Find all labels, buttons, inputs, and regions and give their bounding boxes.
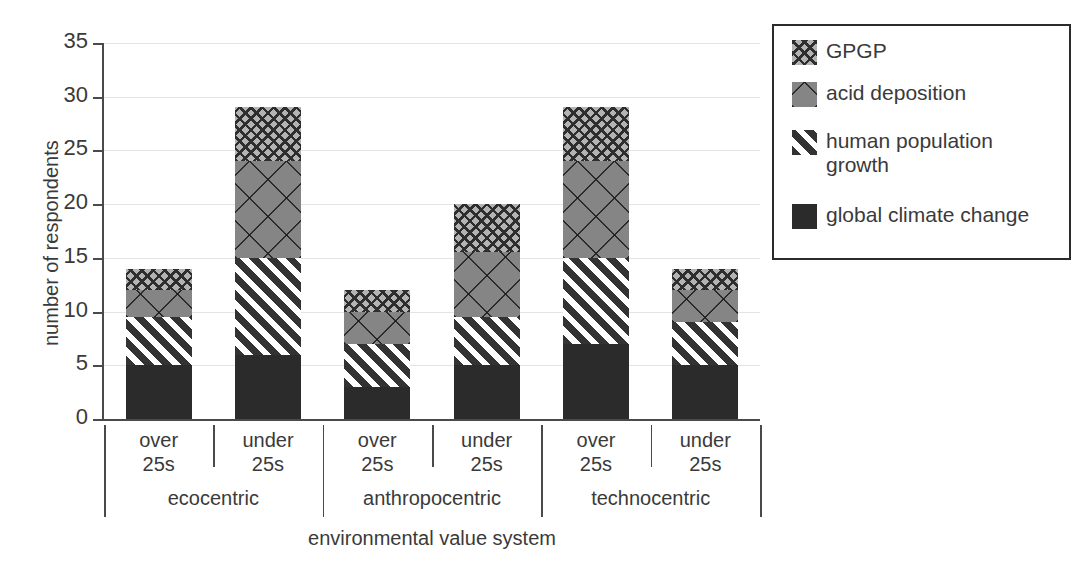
legend-swatch xyxy=(792,130,817,155)
gridline xyxy=(104,258,760,259)
legend-item: GPGP xyxy=(792,40,1054,65)
y-axis-tick xyxy=(93,419,102,421)
bar-segment xyxy=(344,312,410,344)
legend-label: acid deposition xyxy=(826,81,966,105)
x-axis-line xyxy=(102,419,760,421)
y-axis-tick xyxy=(93,365,102,367)
bar-segment xyxy=(235,161,301,258)
bar-segment xyxy=(563,107,629,161)
legend-label: human population growth xyxy=(826,129,993,176)
bar-segment xyxy=(563,344,629,419)
x-axis-divider xyxy=(541,425,543,517)
legend-swatch xyxy=(792,82,817,107)
y-axis-tick xyxy=(93,204,102,206)
legend-swatch xyxy=(792,40,817,65)
x-axis-divider xyxy=(651,425,653,467)
x-axis-group-label: ecocentric xyxy=(104,487,323,511)
x-axis-category-label: under25s xyxy=(432,429,541,476)
y-axis-tick xyxy=(93,258,102,260)
y-axis-tick xyxy=(93,150,102,152)
x-axis-group-label: technocentric xyxy=(541,487,760,511)
legend-item: human population growth xyxy=(792,130,1054,176)
bar-stack xyxy=(563,43,629,419)
y-axis-tick-label: 20 xyxy=(30,191,88,213)
x-axis-divider xyxy=(213,425,215,467)
bar-segment xyxy=(344,290,410,311)
bar-segment xyxy=(563,258,629,344)
y-axis-tick xyxy=(93,312,102,314)
x-axis-category-label: under25s xyxy=(651,429,760,476)
bar-segment xyxy=(672,290,738,322)
bar-segment xyxy=(344,387,410,419)
x-axis-group-label: anthropocentric xyxy=(323,487,542,511)
bar-stack xyxy=(344,43,410,419)
x-axis-category-label: over25s xyxy=(541,429,650,476)
legend-swatch xyxy=(792,204,817,229)
bar-stack xyxy=(126,43,192,419)
gridline xyxy=(104,97,760,98)
bar-segment xyxy=(672,365,738,419)
bar-segment xyxy=(126,290,192,317)
chart-legend: GPGPacid depositionhuman population grow… xyxy=(772,24,1071,260)
y-axis-tick-label: 35 xyxy=(30,30,88,52)
bar-segment xyxy=(563,161,629,258)
bar-segment xyxy=(672,322,738,365)
y-axis-tick-label: 10 xyxy=(30,299,88,321)
bar-stack xyxy=(235,43,301,419)
legend-item: global climate change xyxy=(792,204,1054,229)
bar-segment xyxy=(454,204,520,252)
y-axis-tick-label: 15 xyxy=(30,245,88,267)
y-axis-tick-label: 0 xyxy=(30,406,88,428)
bar-segment xyxy=(454,252,520,316)
y-axis-tick xyxy=(93,43,102,45)
bar-stack xyxy=(454,43,520,419)
bar-segment xyxy=(344,344,410,387)
bar-segment xyxy=(126,365,192,419)
gridline xyxy=(104,204,760,205)
x-axis-title: environmental value system xyxy=(0,527,864,550)
x-axis-divider xyxy=(432,425,434,467)
legend-label: global climate change xyxy=(826,203,1029,227)
x-axis-category-label: under25s xyxy=(213,429,322,476)
gridline xyxy=(104,150,760,151)
bar-segment xyxy=(126,269,192,290)
bar-segment xyxy=(454,317,520,365)
legend-label: GPGP xyxy=(826,39,887,63)
bar-segment xyxy=(235,258,301,355)
x-axis-divider xyxy=(323,425,325,517)
x-axis-divider xyxy=(760,425,762,517)
x-axis-divider xyxy=(104,425,106,517)
bar-segment xyxy=(454,365,520,419)
y-axis-tick-label: 25 xyxy=(30,137,88,159)
bar-segment xyxy=(672,269,738,290)
y-axis-line xyxy=(102,43,104,421)
x-axis-category-label: over25s xyxy=(104,429,213,476)
bar-segment xyxy=(235,355,301,419)
y-axis-tick-label: 30 xyxy=(30,84,88,106)
bar-segment xyxy=(235,107,301,161)
chart-canvas: number of respondents 05101520253035 ove… xyxy=(0,0,1087,569)
bar-stack xyxy=(672,43,738,419)
gridline xyxy=(104,312,760,313)
y-axis-tick xyxy=(93,97,102,99)
gridline xyxy=(104,43,760,44)
bar-segment xyxy=(126,317,192,365)
gridline xyxy=(104,365,760,366)
x-axis-category-label: over25s xyxy=(323,429,432,476)
legend-item: acid deposition xyxy=(792,82,1054,107)
y-axis-tick-label: 5 xyxy=(30,352,88,374)
